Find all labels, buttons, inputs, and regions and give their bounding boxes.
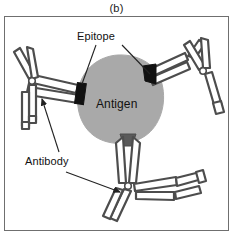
antibody-right-free [184, 38, 224, 114]
label-antibody: Antibody [25, 155, 69, 168]
antigen-antibody-diagram [0, 0, 233, 235]
figure-panel: (b) [0, 0, 233, 235]
antibody-leader-up [42, 99, 59, 152]
antibody-leader-down [66, 172, 120, 192]
antibody-left-free [14, 47, 38, 129]
antibody-bottom-right-free [134, 170, 206, 200]
label-epitope: Epitope [77, 30, 115, 43]
antibody-bottom-bound [103, 137, 140, 221]
label-antigen: Antigen [96, 98, 137, 111]
